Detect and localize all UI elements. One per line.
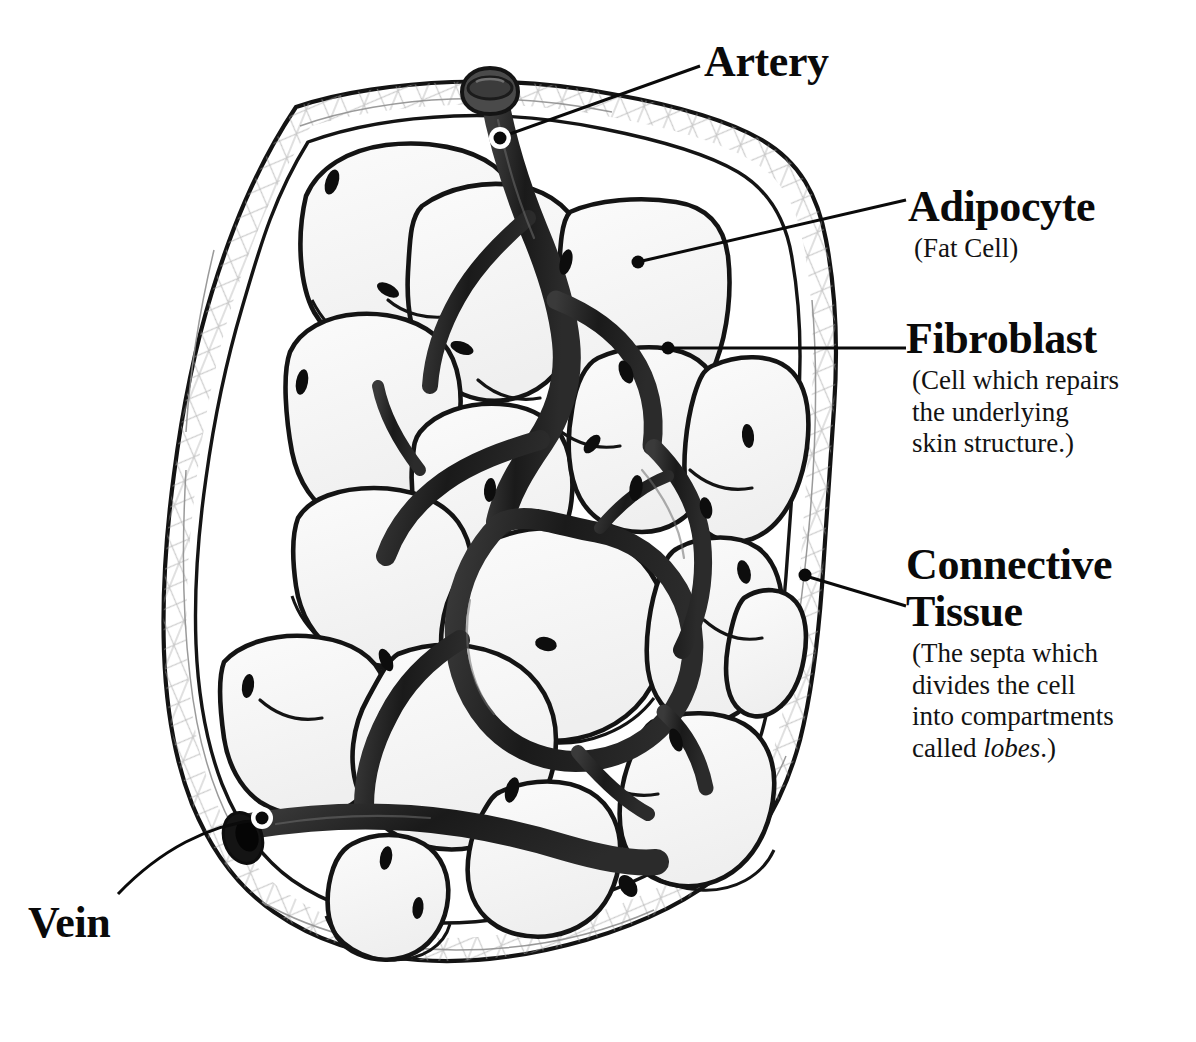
- label-fibroblast-subtitle: (Cell which repairs the underlying skin …: [906, 365, 1119, 460]
- label-adipocyte: Adipocyte (Fat Cell): [908, 183, 1095, 265]
- label-adipocyte-subtitle: (Fat Cell): [908, 233, 1095, 265]
- figure-caption: [0, 1030, 1196, 1042]
- label-connective-tissue-subtitle: (The septa which divides the cell into c…: [906, 638, 1196, 764]
- label-artery-title: Artery: [704, 38, 829, 85]
- leader-dot-adipocyte: [632, 256, 645, 269]
- leader-dot-fibroblast: [662, 342, 675, 355]
- label-connective-tissue-subtitle-line: into compartments: [912, 701, 1196, 733]
- figure-canvas: Artery Adipocyte (Fat Cell) Fibroblast (…: [0, 0, 1196, 1042]
- label-fibroblast: Fibroblast (Cell which repairs the under…: [906, 315, 1119, 460]
- artery-cut-end: [462, 68, 518, 114]
- label-fibroblast-subtitle-line: the underlying: [912, 397, 1119, 429]
- label-connective-tissue: Connective Tissue (The septa which divid…: [906, 541, 1196, 764]
- label-fibroblast-subtitle-line: (Cell which repairs: [912, 365, 1119, 397]
- label-fibroblast-subtitle-line: skin structure.): [912, 428, 1119, 460]
- label-connective-tissue-subtitle-line-last: called lobes.): [912, 733, 1196, 765]
- label-fibroblast-title: Fibroblast: [906, 315, 1119, 362]
- label-connective-tissue-subtitle-line: (The septa which: [912, 638, 1196, 670]
- leader-dot-connective: [799, 569, 812, 582]
- label-connective-tissue-subtitle-lead: called: [912, 733, 983, 763]
- label-vein: Vein: [28, 899, 110, 946]
- label-adipocyte-title: Adipocyte: [908, 183, 1095, 230]
- adipose-tissue-illustration: [0, 0, 1196, 1042]
- label-vein-title: Vein: [28, 899, 110, 946]
- label-connective-tissue-title-line: Tissue: [906, 588, 1196, 635]
- label-connective-tissue-subtitle-tail: .): [1040, 733, 1056, 763]
- label-connective-tissue-subtitle-line: divides the cell: [912, 670, 1196, 702]
- label-connective-tissue-italic-word: lobes: [983, 733, 1040, 763]
- label-connective-tissue-title-line: Connective: [906, 541, 1196, 588]
- label-artery: Artery: [704, 38, 829, 85]
- label-connective-tissue-title: Connective Tissue: [906, 541, 1196, 635]
